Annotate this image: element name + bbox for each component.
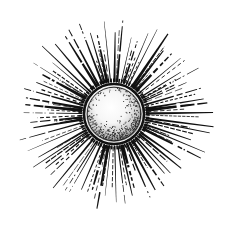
sun-icon [0,0,228,225]
sun-illustration: Engraved sun with radiating rays [0,0,228,225]
sun-sphere [84,84,144,144]
